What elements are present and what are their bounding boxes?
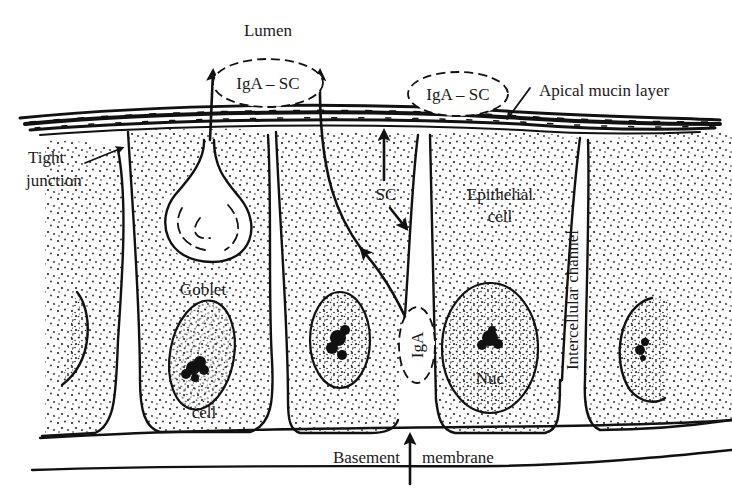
intercellular-channel-label: Intercellular channel: [563, 230, 582, 370]
goblet-cell-label-2: cell: [192, 403, 217, 422]
sc-label: SC: [376, 185, 397, 204]
tight-junction-label-1: Tight: [28, 148, 65, 167]
goblet-cell-label-1: Goblet: [180, 280, 227, 299]
lumen-label: Lumen: [244, 21, 293, 40]
nucleus-label: Nuc: [476, 369, 505, 388]
epithelial-cell: [430, 132, 580, 433]
tight-junction-label-2: junction: [25, 171, 82, 190]
iga-sc-complex-1: IgA – SC: [213, 59, 323, 107]
epithelial-nucleus: [442, 283, 538, 413]
iga-molecule: IgA: [399, 307, 435, 383]
apical-mucin-layer: [20, 105, 720, 135]
iga-transport-cell: [276, 130, 418, 433]
membrane-label: membrane: [422, 448, 494, 467]
basement-label: Basement: [333, 448, 400, 467]
iga-sc-complex-2: IgA – SC: [408, 72, 508, 116]
iga-sc-label-2: IgA – SC: [426, 85, 489, 104]
iga-transport-diagram: IgA – SC IgA – SC IgA Lumen Apical mucin…: [0, 0, 732, 503]
iga-label: IgA: [408, 331, 427, 358]
epithelial-cell-label-1: Epithelial: [467, 185, 533, 204]
iga-sc-label-1: IgA – SC: [236, 74, 299, 93]
partial-right-cell: [585, 130, 732, 430]
epithelial-cell-label-2: cell: [488, 207, 513, 226]
apical-mucin-layer-label: Apical mucin layer: [539, 81, 670, 100]
